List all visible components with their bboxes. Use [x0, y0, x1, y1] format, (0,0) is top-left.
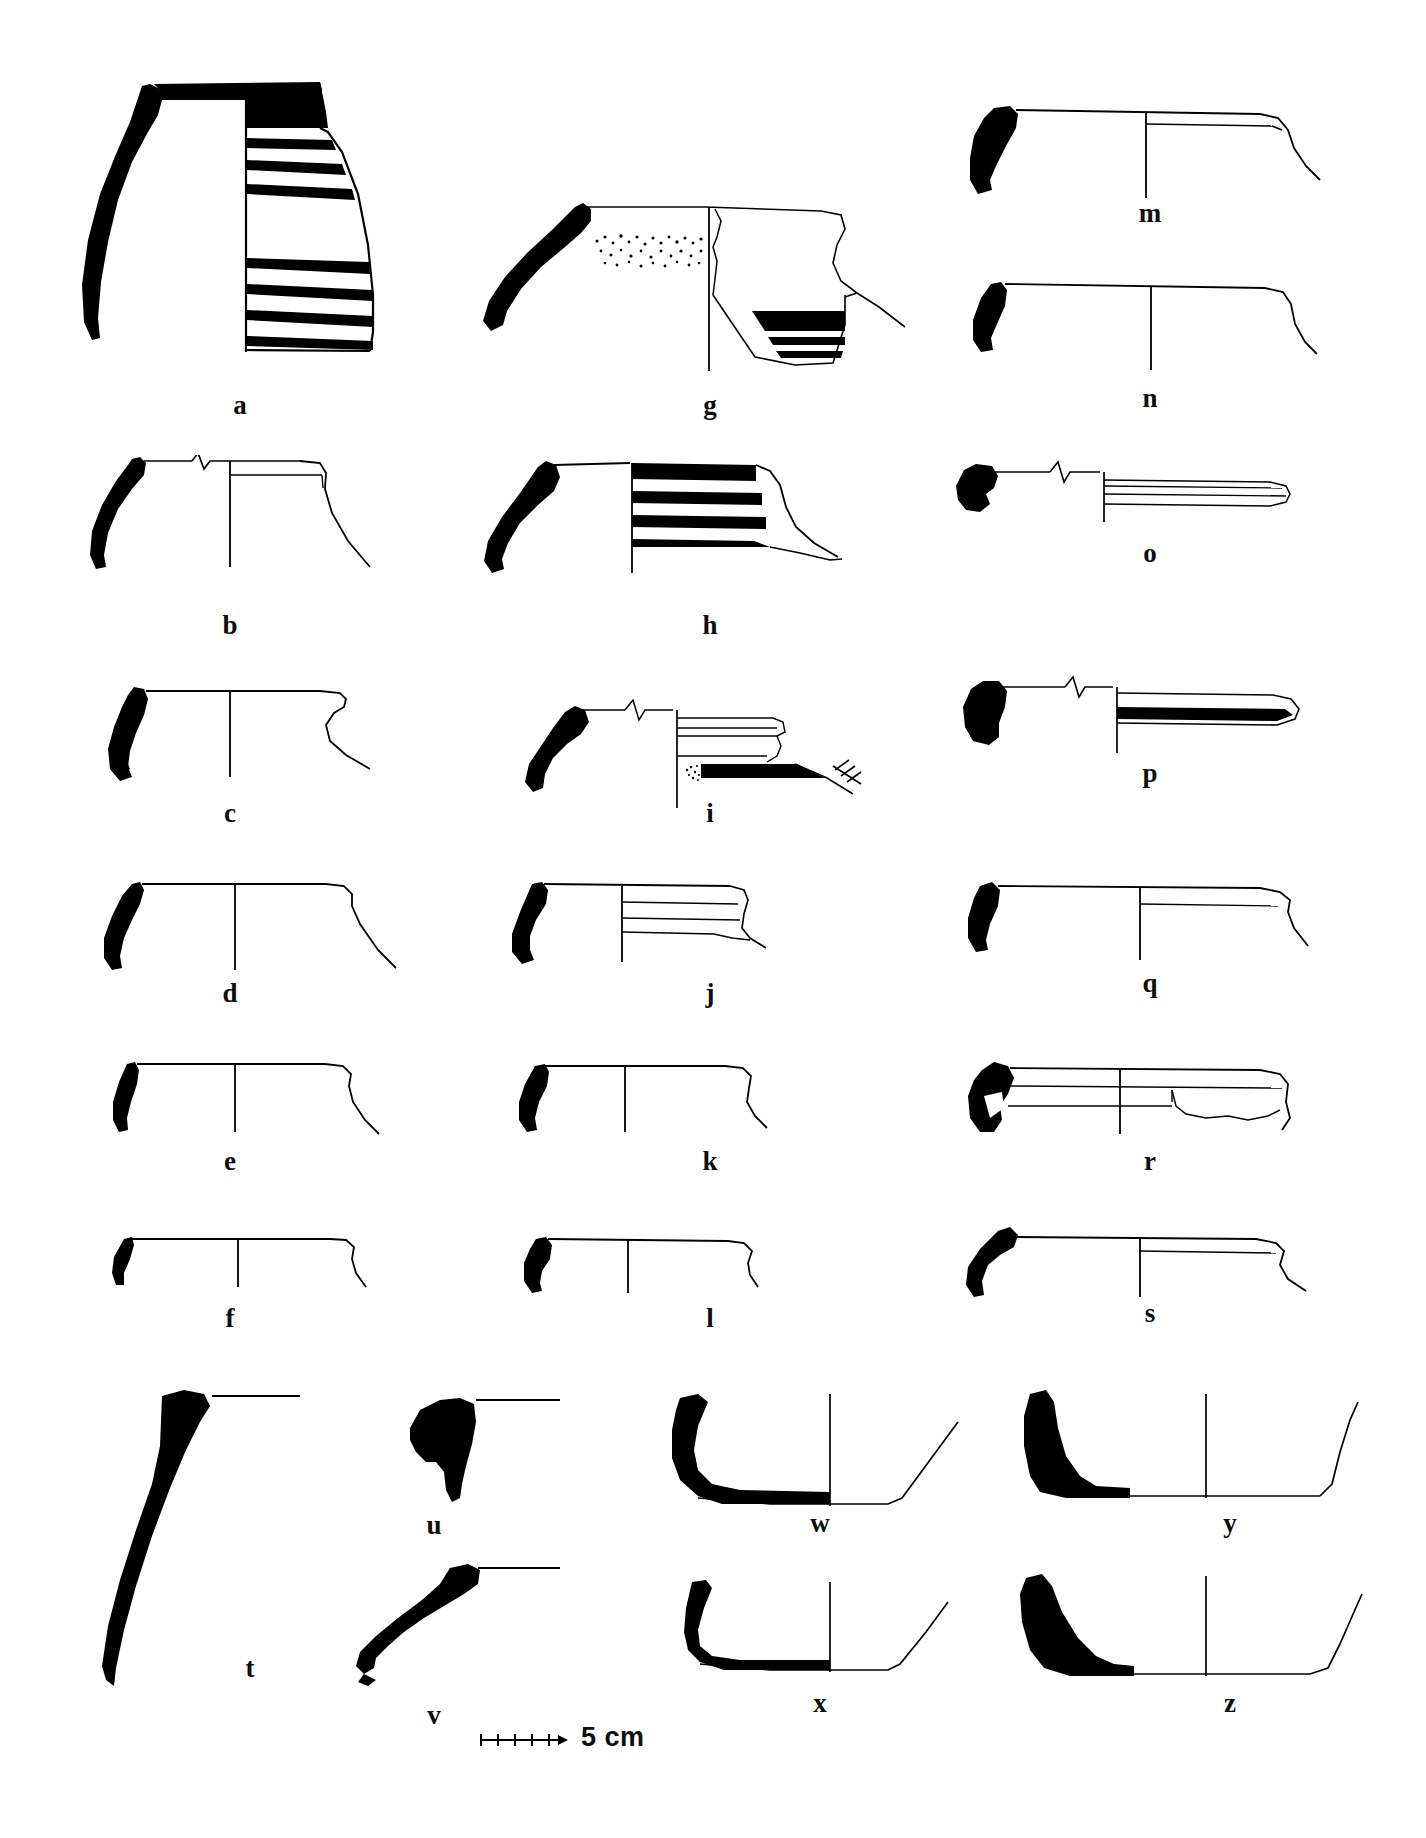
- figure-label-c: c: [200, 800, 260, 827]
- figure-label-r: r: [1120, 1148, 1180, 1175]
- figure-label-n: n: [1120, 385, 1180, 412]
- figure-y: [1010, 1380, 1370, 1530]
- figure-label-h: h: [680, 612, 740, 639]
- figure-label-v: v: [404, 1702, 464, 1729]
- figure-label-w: w: [790, 1510, 850, 1537]
- figure-label-l: l: [680, 1305, 740, 1332]
- figure-h: [470, 455, 870, 585]
- figure-label-z: z: [1200, 1690, 1260, 1717]
- figure-label-a: a: [210, 392, 270, 419]
- figure-n: [965, 280, 1365, 390]
- scale-bar-label: 5 cm: [581, 1722, 645, 1753]
- figure-label-f: f: [200, 1305, 260, 1332]
- figure-label-y: y: [1200, 1510, 1260, 1537]
- figure-label-k: k: [680, 1148, 740, 1175]
- figure-label-i: i: [680, 800, 740, 827]
- pottery-plate: a b c: [0, 0, 1426, 1838]
- figure-a: [70, 70, 400, 370]
- figure-t: [100, 1380, 340, 1700]
- figure-label-e: e: [200, 1148, 260, 1175]
- figure-u: [400, 1390, 580, 1520]
- scale-bar-graphic: [478, 1727, 574, 1749]
- figure-c: [90, 685, 410, 795]
- figure-label-s: s: [1120, 1300, 1180, 1327]
- figure-j: [500, 880, 850, 985]
- figure-d: [90, 880, 410, 990]
- figure-label-g: g: [680, 392, 740, 419]
- figure-b: [70, 455, 400, 585]
- figure-l: [510, 1235, 840, 1320]
- scale-bar: 5 cm: [478, 1722, 645, 1753]
- figure-e: [95, 1060, 415, 1155]
- figure-z: [1010, 1560, 1370, 1710]
- figure-label-p: p: [1120, 760, 1180, 787]
- figure-g: [465, 185, 925, 375]
- figure-v: [340, 1552, 560, 1697]
- figure-label-d: d: [200, 980, 260, 1007]
- figure-label-b: b: [200, 612, 260, 639]
- figure-label-x: x: [790, 1690, 850, 1717]
- figure-label-t: t: [220, 1655, 280, 1682]
- figure-q: [960, 880, 1360, 980]
- figure-label-m: m: [1120, 200, 1180, 227]
- figure-label-j: j: [680, 980, 740, 1007]
- figure-k: [505, 1060, 835, 1155]
- figure-label-q: q: [1120, 970, 1180, 997]
- figure-label-o: o: [1120, 540, 1180, 567]
- figure-i: [505, 690, 915, 810]
- figure-label-u: u: [404, 1512, 464, 1539]
- figure-f: [100, 1235, 420, 1315]
